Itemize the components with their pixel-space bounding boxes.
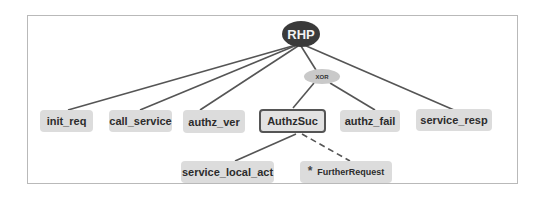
node-label: call_service: [109, 115, 171, 127]
node-service-resp[interactable]: service_resp: [416, 109, 492, 131]
node-label: authz_ver: [188, 116, 239, 128]
node-further-request[interactable]: * FurtherRequest: [300, 161, 392, 183]
node-label: service_local_act: [182, 166, 273, 178]
node-service-local-act[interactable]: service_local_act: [181, 161, 274, 183]
node-authzsuc[interactable]: AuthzSuc: [259, 109, 326, 133]
xor-label: XOR: [315, 74, 328, 80]
xor-operator-node[interactable]: XOR: [304, 69, 340, 84]
node-authz-fail[interactable]: authz_fail: [340, 110, 400, 132]
node-init-req[interactable]: init_req: [40, 110, 93, 132]
node-label: init_req: [47, 115, 87, 127]
node-label: FurtherRequest: [317, 167, 384, 177]
node-label: service_resp: [420, 114, 487, 126]
node-label: AuthzSuc: [267, 115, 318, 127]
root-node-rhp[interactable]: RHP: [282, 21, 320, 47]
node-call-service[interactable]: call_service: [109, 110, 172, 132]
node-authz-ver[interactable]: authz_ver: [183, 110, 245, 133]
asterisk-icon: *: [308, 164, 313, 178]
root-label: RHP: [287, 27, 314, 42]
node-label: authz_fail: [345, 115, 396, 127]
